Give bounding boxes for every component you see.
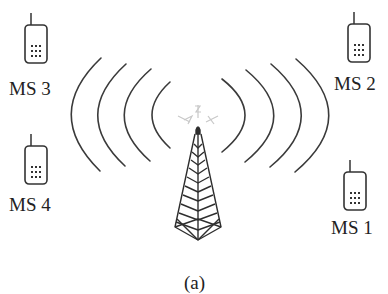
diagram-canvas xyxy=(0,0,388,294)
ms2-label: MS 2 xyxy=(334,74,376,93)
left-radio-waves xyxy=(71,58,170,171)
ms1-label: MS 1 xyxy=(331,218,373,237)
ms4-label: MS 4 xyxy=(9,195,51,214)
figure-caption: (a) xyxy=(184,273,205,292)
right-radio-waves xyxy=(222,59,329,172)
wave-arc xyxy=(71,58,101,171)
base-station-tower xyxy=(175,127,221,240)
wave-arc xyxy=(222,79,245,152)
mobile-station-ms2-icon xyxy=(348,12,370,62)
mobile-station-ms1-icon xyxy=(344,160,366,210)
wave-arc xyxy=(270,64,301,167)
wave-arc xyxy=(245,70,274,162)
wave-arc xyxy=(152,82,170,148)
mobile-station-ms3-icon xyxy=(25,13,47,63)
wave-arc xyxy=(98,64,126,166)
wave-arc xyxy=(124,69,151,161)
mobile-station-ms4-icon xyxy=(25,134,47,184)
wave-arc xyxy=(295,59,329,172)
faint-antenna-mark xyxy=(178,105,218,124)
ms3-label: MS 3 xyxy=(9,79,51,98)
